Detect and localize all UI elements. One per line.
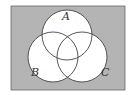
label-b: B [30,66,39,79]
label-a: A [61,10,70,23]
label-c: C [101,66,110,79]
venn-diagram: A B C [0,0,133,95]
